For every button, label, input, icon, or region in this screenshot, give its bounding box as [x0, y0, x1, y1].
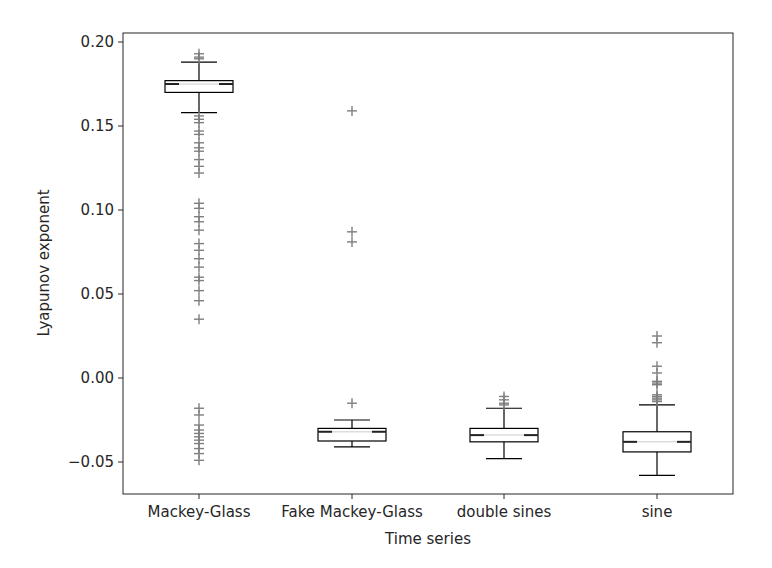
outlier-marker [652, 338, 662, 348]
outlier-marker [347, 227, 357, 237]
iqr-box [318, 428, 386, 441]
plot-frame [123, 33, 733, 494]
iqr-box [165, 81, 233, 93]
x-tick-label: sine [642, 503, 673, 521]
y-tick-label: 0.10 [81, 201, 114, 219]
outlier-marker [194, 296, 204, 306]
y-tick-label: 0.20 [81, 33, 114, 51]
outlier-marker [194, 410, 204, 420]
boxes-layer [165, 49, 691, 476]
outlier-marker [194, 286, 204, 296]
outlier-marker [194, 168, 204, 178]
outlier-marker [194, 455, 204, 465]
box-sine [623, 331, 691, 475]
box-fake-mackey-glass [318, 106, 386, 447]
x-tick-label: Fake Mackey-Glass [281, 503, 423, 521]
y-tick-label: 0.00 [81, 369, 114, 387]
outlier-marker [194, 225, 204, 235]
boxplot-chart: 0.200.150.100.050.00−0.05 Mackey-GlassFa… [0, 0, 772, 568]
outlier-marker [194, 314, 204, 324]
y-tick-label: −0.05 [68, 453, 114, 471]
x-axis-label: Time series [384, 530, 471, 548]
x-tick-label: Mackey-Glass [148, 503, 251, 521]
y-tick-label: 0.15 [81, 117, 114, 135]
outlier-marker [347, 106, 357, 116]
y-tick-label: 0.05 [81, 285, 114, 303]
outlier-marker [347, 398, 357, 408]
x-tick-label: double sines [457, 503, 552, 521]
box-mackey-glass [165, 49, 233, 466]
box-double-sines [470, 391, 538, 458]
y-axis-label: Lyapunov exponent [35, 189, 53, 336]
outlier-marker [347, 237, 357, 247]
x-axis: Mackey-GlassFake Mackey-Glassdouble sine… [148, 494, 673, 521]
y-axis: 0.200.150.100.050.00−0.05 [68, 33, 123, 471]
outlier-marker [194, 262, 204, 272]
